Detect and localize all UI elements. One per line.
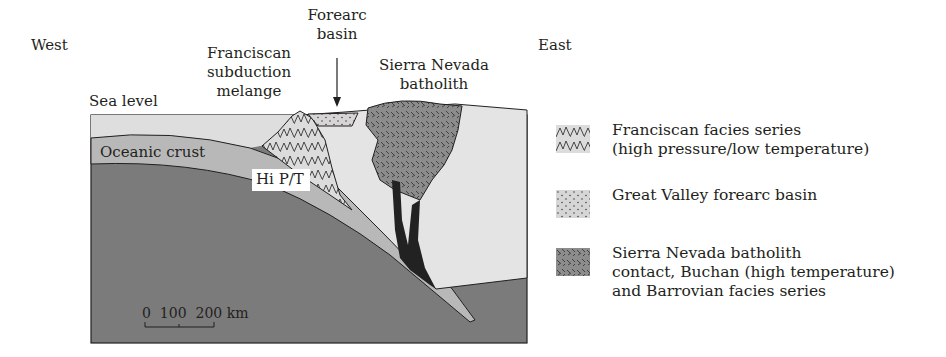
legend-item-forearc: Great Valley forearc basin (556, 186, 817, 218)
legend-line: contact, Buchan (high temperature) (612, 263, 895, 282)
legend-line: and Barrovian facies series (612, 282, 895, 301)
batholith-pattern-icon (556, 248, 590, 276)
franciscan-pattern-icon (556, 125, 590, 153)
scale-tick-100: 100 (160, 305, 187, 321)
legend-line: Franciscan facies series (612, 121, 869, 140)
oceanic-crust-label: Oceanic crust (100, 143, 205, 162)
east-label: East (538, 36, 572, 55)
scale-tick-200: 200 (195, 305, 222, 321)
scale-unit: km (227, 305, 249, 321)
legend-line: Sierra Nevada batholith (612, 244, 895, 263)
forearc-pattern-icon (556, 190, 590, 218)
forearc-label-line: Forearc (303, 6, 371, 25)
franciscan-label-line: melange (200, 82, 298, 101)
legend-line: Great Valley forearc basin (612, 186, 817, 205)
legend-text: Great Valley forearc basin (612, 186, 817, 205)
hi-pt-label: Hi P/T (256, 170, 304, 189)
legend-item-batholith: Sierra Nevada batholith contact, Buchan … (556, 244, 895, 301)
sierra-label: Sierra Nevada batholith (378, 56, 490, 94)
sierra-label-line: batholith (378, 75, 490, 94)
legend-item-franciscan: Franciscan facies series (high pressure/… (556, 121, 869, 159)
franciscan-label: Franciscan subduction melange (200, 44, 298, 101)
sierra-label-line: Sierra Nevada (378, 56, 490, 75)
legend-text: Sierra Nevada batholith contact, Buchan … (612, 244, 895, 301)
franciscan-label-line: subduction (200, 63, 298, 82)
forearc-label: Forearc basin (303, 6, 371, 44)
arrow-down-icon (333, 97, 341, 107)
legend-line: (high pressure/low temperature) (612, 140, 869, 159)
forearc-label-line: basin (303, 25, 371, 44)
legend-text: Franciscan facies series (high pressure/… (612, 121, 869, 159)
scale-bar-label: 0 100 200 km (142, 304, 248, 323)
sea-level-label: Sea level (89, 92, 158, 111)
scale-tick-0: 0 (142, 305, 151, 321)
franciscan-label-line: Franciscan (200, 44, 298, 63)
west-label: West (31, 36, 68, 55)
